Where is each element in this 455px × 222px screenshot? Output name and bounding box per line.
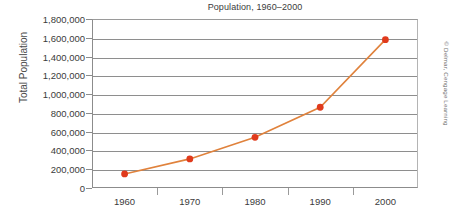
- y-axis-tick-label: 800,000: [11, 107, 85, 118]
- copyright-credit: © Delmar, Cengage Learning: [443, 42, 450, 162]
- chart-figure: Population, 1960–2000 Total Population 1…: [0, 0, 455, 222]
- y-axis-tick-label: 1,400,000: [11, 51, 85, 62]
- series-markers: [121, 36, 389, 177]
- x-axis-tick-label: 1990: [310, 196, 331, 207]
- data-point-1960: [121, 171, 128, 178]
- data-point-1970: [186, 155, 193, 162]
- x-axis-tick-label: 2000: [375, 196, 396, 207]
- population-line-series: [92, 19, 418, 188]
- y-axis-tick-label: 400,000: [11, 145, 85, 156]
- series-line: [125, 40, 386, 174]
- x-axis-tick-label: 1960: [114, 196, 135, 207]
- y-axis-tick-mark: [86, 188, 92, 189]
- data-point-1990: [317, 104, 324, 111]
- y-axis-tick-label: 200,000: [11, 164, 85, 175]
- y-axis-tick-label: 600,000: [11, 126, 85, 137]
- y-axis-tick-label: 1,000,000: [11, 89, 85, 100]
- data-point-1980: [252, 134, 259, 141]
- x-axis-tick-label: 1980: [244, 196, 265, 207]
- y-axis-tick-label: 1,800,000: [11, 14, 85, 25]
- x-axis-tick-mark: [353, 188, 354, 195]
- x-axis-tick-mark: [157, 188, 158, 195]
- y-axis-tick-label: 1,600,000: [11, 32, 85, 43]
- y-axis-tick-label: 1,200,000: [11, 70, 85, 81]
- data-point-2000: [382, 36, 389, 43]
- y-axis-tick-label: 0: [11, 183, 85, 194]
- x-axis-tick-mark: [288, 188, 289, 195]
- x-axis-tick-mark: [222, 188, 223, 195]
- x-axis-tick-label: 1970: [179, 196, 200, 207]
